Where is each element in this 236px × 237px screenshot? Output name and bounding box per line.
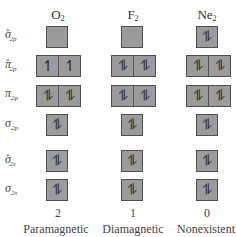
o2-sigma-2p-orbital: ⥮ [46,114,68,136]
orbital-cell: ⥮ [122,115,142,135]
row-label-pi-2p: π2p [5,86,18,102]
orbital-cell: ↿ [37,56,58,76]
f2-pi-2p-orbitals: ⥮ ⥮ [111,85,156,107]
orbital-cell: ⥮ [133,86,155,106]
orbital-cell [122,27,142,47]
ne2-sigma-star-2s-orbital: ⥮ [196,150,218,172]
molecule-symbol: Ne [197,7,212,22]
orbital-cell: ⥮ [47,151,67,171]
orbital-cell: ⥮ [122,151,142,171]
electron-arrows: ⥮ [215,89,222,104]
orbital-subscript: 2s [9,160,15,168]
ne2-pi-star-2p-orbitals: ⥮ ⥮ [186,55,231,77]
row-label-sigma-star-2s: σ*2s [5,152,16,168]
orbital-cell: ⥮ [187,86,208,106]
orbital-cell: ⥮ [37,86,58,106]
electron-arrows: ⥮ [52,183,59,198]
electron-arrows: ⥮ [140,89,147,104]
molecule-symbol: O [51,7,60,22]
f2-magnetism-label: Diamagnetic [93,222,173,237]
orbital-subscript: 2p [10,65,17,73]
column-header-ne2: Ne2 [187,7,227,23]
orbital-cell: ⥮ [122,180,142,200]
electron-arrows: ⥮ [52,118,59,133]
orbital-cell: ⥮ [112,86,133,106]
orbital-cell: ⥮ [47,115,67,135]
electron-arrows: ⥮ [140,59,147,74]
orbital-cell: ⥮ [197,151,217,171]
electron-arrows: ⥮ [118,89,125,104]
orbital-cell [47,27,67,47]
row-label-sigma-star-2p: σ*2p [5,27,16,43]
f2-bond-count: 1 [98,206,168,221]
electron-arrows: ⥮ [127,183,134,198]
o2-pi-star-2p-orbitals: ↿ ↿ [36,55,81,77]
f2-sigma-2p-orbital: ⥮ [121,114,143,136]
ne2-bond-count: 0 [172,206,236,221]
ne2-sigma-2s-orbital: ⥮ [196,179,218,201]
orbital-cell: ⥮ [208,56,230,76]
electron-arrows: ↿ [42,59,51,74]
electron-arrows: ⥮ [193,89,200,104]
electron-arrows: ⥮ [65,89,72,104]
orbital-cell: ⥮ [58,86,80,106]
molecule-symbol: F [127,7,134,22]
ne2-magnetism-label: Nonexistent [166,222,236,237]
orbital-cell: ⥮ [47,180,67,200]
orbital-cell: ⥮ [197,27,217,47]
o2-sigma-2s-orbital: ⥮ [46,179,68,201]
orbital-subscript: 2p [11,124,18,132]
electron-arrows: ⥮ [193,59,200,74]
o2-pi-2p-orbitals: ⥮ ⥮ [36,85,81,107]
antibonding-star: * [6,57,10,65]
orbital-cell: ↿ [58,56,80,76]
orbital-cell: ⥮ [197,180,217,200]
row-label-pi-star-2p: π*2p [5,57,17,73]
orbital-cell: ⥮ [133,56,155,76]
electron-arrows: ⥮ [127,154,134,169]
orbital-cell: ⥮ [197,115,217,135]
molecule-subscript: 2 [213,14,217,23]
f2-sigma-star-2p-orbital [121,26,143,48]
ne2-sigma-star-2p-orbital: ⥮ [196,26,218,48]
electron-arrows: ⥮ [118,59,125,74]
ne2-sigma-2p-orbital: ⥮ [196,114,218,136]
electron-arrows: ⥮ [215,59,222,74]
o2-bond-count: 2 [23,206,93,221]
electron-arrows: ⥮ [202,118,209,133]
electron-arrows: ⥮ [43,89,50,104]
electron-arrows: ↿ [64,59,73,74]
o2-sigma-star-2s-orbital: ⥮ [46,150,68,172]
antibonding-star: * [6,152,10,160]
o2-sigma-star-2p-orbital [46,26,68,48]
column-header-o2: O2 [38,7,78,23]
f2-sigma-star-2s-orbital: ⥮ [121,150,143,172]
o2-magnetism-label: Paramagnetic [16,222,96,237]
antibonding-star: * [6,27,10,35]
orbital-cell: ⥮ [112,56,133,76]
orbital-cell: ⥮ [187,56,208,76]
row-label-sigma-2p: σ2p [5,116,18,132]
electron-arrows: ⥮ [52,154,59,169]
electron-arrows: ⥮ [202,183,209,198]
orbital-subscript: 2p [11,94,18,102]
electron-arrows: ⥮ [127,118,134,133]
orbital-subscript: 2p [9,35,16,43]
molecule-subscript: 2 [61,14,65,23]
ne2-pi-2p-orbitals: ⥮ ⥮ [186,85,231,107]
row-label-sigma-2s: σ2s [5,181,17,197]
f2-sigma-2s-orbital: ⥮ [121,179,143,201]
electron-arrows: ⥮ [202,30,209,45]
electron-arrows: ⥮ [202,154,209,169]
column-header-f2: F2 [113,7,153,23]
orbital-subscript: 2s [11,189,17,197]
f2-pi-star-2p-orbitals: ⥮ ⥮ [111,55,156,77]
molecule-subscript: 2 [135,14,139,23]
orbital-cell: ⥮ [208,86,230,106]
